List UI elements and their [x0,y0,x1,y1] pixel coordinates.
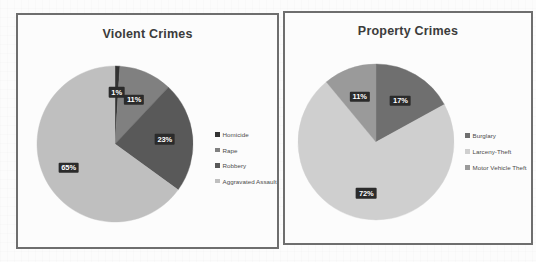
legend-item-label: Homicide [223,131,249,138]
legend-item-label: Rape [223,147,238,154]
legend-item-label: Robbery [223,162,247,169]
pie-slice-percent-label: 23% [154,134,175,145]
legend-item: Burglary [465,132,527,139]
legend-swatch-icon [215,179,220,184]
legend-swatch-icon [215,148,220,153]
pie-slice-percent-label: 1% [108,87,125,98]
pie-slice-percent-label: 11% [124,95,144,106]
pie-slice-percent-label: 65% [58,162,79,173]
violent-crimes-chart-panel: Violent Crimes 1%11%23%65% HomicideRapeR… [16,13,279,249]
property-crimes-chart-panel: Property Crimes 17%72%11% BurglaryLarcen… [283,11,533,245]
violent-crimes-chart-title: Violent Crimes [18,27,277,41]
property-crimes-pie: 17%72%11% [297,63,455,221]
violent-crimes-legend: HomicideRapeRobberyAggravated Assault [215,131,277,185]
legend-item-label: Aggravated Assault [223,178,277,185]
legend-swatch-icon [465,149,470,154]
pie-slice-percent-label: 72% [356,188,377,199]
property-crimes-legend: BurglaryLarceny-TheftMotor Vehicle Theft [465,132,527,171]
legend-item: Larceny-Theft [465,148,527,155]
legend-item: Motor Vehicle Theft [465,164,527,171]
legend-swatch-icon [465,133,470,138]
legend-swatch-icon [465,165,470,170]
legend-item-label: Burglary [473,132,496,139]
legend-item-label: Motor Vehicle Theft [473,164,527,171]
legend-item: Homicide [215,131,277,138]
legend-swatch-icon [215,163,220,168]
property-crimes-chart-title: Property Crimes [285,24,531,38]
legend-item: Rape [215,147,277,154]
violent-crimes-pie: 1%11%23%65% [36,65,194,223]
legend-item: Robbery [215,162,277,169]
legend-item-label: Larceny-Theft [473,148,512,155]
legend-item: Aggravated Assault [215,178,277,185]
pie-slice-percent-label: 11% [350,92,370,103]
screenshot-canvas: Violent Crimes 1%11%23%65% HomicideRapeR… [0,0,536,262]
pie-slice-percent-label: 17% [390,95,411,106]
legend-swatch-icon [215,132,220,137]
